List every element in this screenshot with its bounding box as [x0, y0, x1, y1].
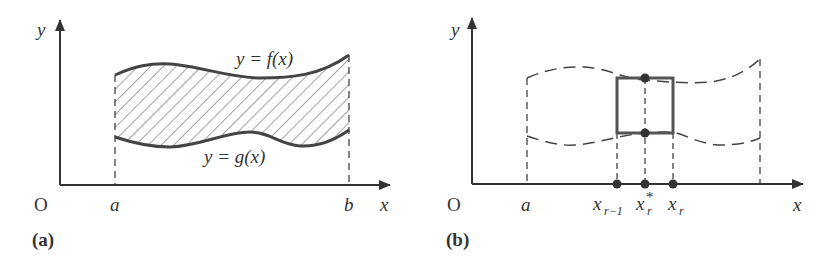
- point-f-x-r-star: [641, 74, 650, 83]
- y-axis-label: y: [449, 19, 460, 40]
- f-curve-label: y = f(x): [234, 48, 293, 70]
- x-axis-label: x: [792, 194, 802, 215]
- origin-label: O: [447, 194, 461, 215]
- a-label: a: [521, 194, 531, 215]
- x-r-minus-1-label: x r−1: [592, 193, 623, 218]
- x-r-base: x: [667, 193, 677, 214]
- strip-rectangle: [617, 78, 673, 133]
- panel-a: y O a b x y = f(x) y = g(x) (a): [32, 19, 390, 251]
- x-r-subscript: r: [679, 204, 684, 218]
- b-label: b: [344, 194, 354, 215]
- x-r-star-label: x r *: [635, 189, 654, 218]
- x-r-star-base: x: [635, 193, 645, 214]
- y-axis-label: y: [35, 19, 46, 40]
- figure: y O a b x y = f(x) y = g(x) (a) y O: [0, 0, 829, 267]
- origin-label: O: [34, 194, 48, 215]
- caption-a: (a): [32, 229, 54, 251]
- x-axis-label: x: [379, 194, 389, 215]
- point-g-x-r-star: [641, 129, 650, 138]
- x-r-minus-1-subscript: r−1: [604, 204, 623, 218]
- a-label: a: [110, 194, 120, 215]
- caption-b: (b): [446, 229, 469, 251]
- x-r-star-superscript: *: [646, 189, 654, 205]
- panel-b: y O a x x r−1 x r * x r (b): [446, 18, 803, 251]
- g-curve-label: y = g(x): [202, 146, 265, 168]
- x-r-label: x r: [667, 193, 684, 218]
- x-r-star-subscript: r: [647, 204, 652, 218]
- x-r-minus-1-base: x: [592, 193, 602, 214]
